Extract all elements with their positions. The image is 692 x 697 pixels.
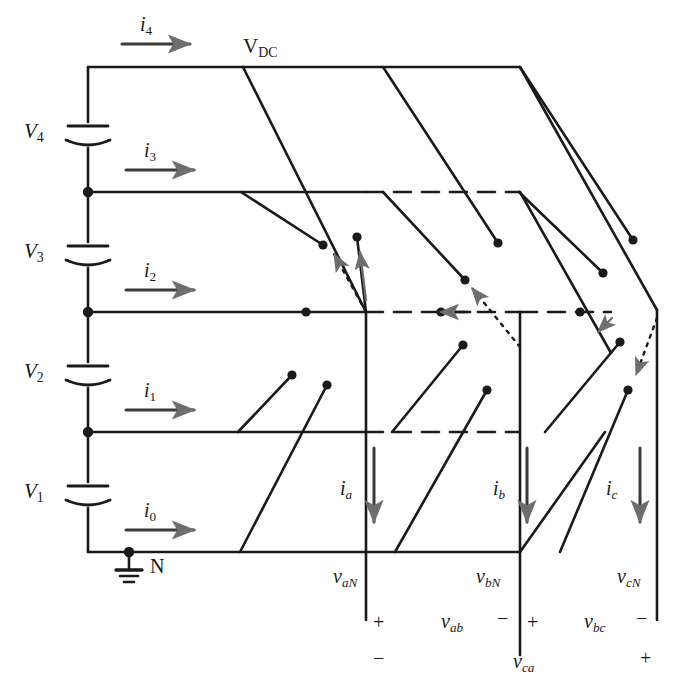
- switch-a-upper-2: [241, 192, 328, 250]
- switch-a-clamp-diode-1: [366, 90, 372, 312]
- polarity-a-plus: +: [373, 612, 384, 632]
- capacitor-v1: [66, 486, 110, 505]
- node-dot-rail2: [83, 307, 93, 317]
- switch-a-upper-1: [243, 67, 366, 312]
- capacitor-v4: [66, 126, 110, 145]
- capacitor-v3: [66, 246, 110, 265]
- node-dot-rail3: [83, 187, 93, 197]
- clamp-arrow-b: [472, 288, 520, 347]
- switch-c-upper-1: [520, 67, 638, 245]
- rail-current-label-i4: i4: [140, 14, 152, 34]
- rail-top-vdc: [88, 67, 657, 310]
- line-voltage-label-vbc: vbc: [584, 611, 605, 631]
- clamp-dot-a2: [301, 307, 310, 316]
- capacitor-label-v3: V3: [24, 241, 44, 262]
- switch-c-upper-2: [519, 192, 608, 278]
- vdc-label: VDC: [243, 36, 277, 57]
- switch-a-lower-1: [238, 370, 297, 432]
- rail-current-label-i0: i0: [144, 500, 156, 520]
- phase-voltage-label-vaN: vaN: [333, 566, 357, 586]
- clamp-dot-c2: [575, 307, 584, 316]
- switch-c-lower-1: [545, 337, 625, 432]
- phase-current-label-ia: ia: [340, 478, 352, 498]
- polarity-a-minus: −: [373, 648, 384, 668]
- switch-b-upper-2: [383, 192, 470, 285]
- capacitor-label-v4: V4: [24, 121, 44, 142]
- clamp-arrow-c: [636, 318, 657, 375]
- phase-current-label-ib: ib: [493, 478, 505, 498]
- switch-a-lower-2: [240, 380, 332, 552]
- switch-c-lower-2: [560, 385, 633, 552]
- rail-current-label-i1: i1: [144, 380, 156, 400]
- switch-b-upper-1: [383, 67, 503, 248]
- figure-root: VDC V4 V3 V2 V1 i4 i3 i2 i1 i0 N ia ib i…: [0, 0, 692, 697]
- rail-current-arrows: [122, 44, 194, 530]
- circuit-schematic: [0, 0, 692, 697]
- capacitor-label-v1: V1: [24, 481, 44, 502]
- polarity-c-plus: +: [640, 648, 651, 668]
- line-voltage-label-vca: vca: [513, 651, 534, 671]
- leg-c-bottom-link: [520, 432, 605, 552]
- polarity-ab-minus: −: [497, 608, 508, 628]
- phase-voltage-label-vbN: vbN: [476, 566, 500, 586]
- line-voltage-label-vab: vab: [441, 611, 463, 631]
- capacitor-label-v2: V2: [24, 361, 44, 382]
- clamp-arrowheads-solid: [360, 252, 612, 332]
- arrowhead-c-left: [598, 318, 612, 332]
- rail-3: [88, 192, 611, 353]
- capacitor-v2: [66, 366, 110, 385]
- polarity-b-plus: +: [527, 612, 538, 632]
- polarity-bc-minus: −: [636, 608, 647, 628]
- rail-current-label-i2: i2: [144, 260, 156, 280]
- phase-voltage-label-vcN: vcN: [617, 566, 641, 586]
- phase-current-label-ic: ic: [606, 478, 617, 498]
- rail-current-label-i3: i3: [144, 140, 156, 160]
- node-dot-rail1: [83, 427, 93, 437]
- neutral-label: N: [150, 556, 164, 576]
- switch-b-lower-1: [392, 340, 468, 432]
